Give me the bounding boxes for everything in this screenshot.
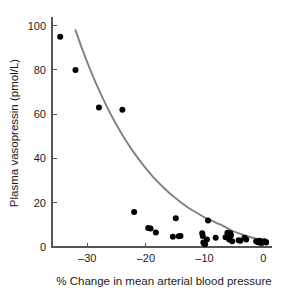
axes-group — [52, 17, 272, 247]
data-point — [243, 236, 249, 242]
y-tick-label: 40 — [34, 152, 46, 164]
data-point — [263, 240, 269, 246]
y-axis-title: Plasma vasopressin (pmol/L) — [8, 59, 20, 207]
x-tick-label: –20 — [137, 252, 155, 264]
x-tick-label: –30 — [78, 252, 96, 264]
data-point — [173, 215, 179, 221]
data-point — [153, 229, 159, 235]
y-tick-label: 60 — [34, 108, 46, 120]
x-tick-label: –10 — [195, 252, 213, 264]
data-point — [213, 235, 219, 241]
x-axis-title: % Change in mean arterial blood pressure — [56, 275, 271, 287]
y-tick-label: 100 — [28, 20, 46, 32]
y-tick-label: 20 — [34, 197, 46, 209]
data-point — [177, 233, 183, 239]
vasopressin-scatter-figure: 020406080100–30–20–100% Change in mean a… — [0, 0, 287, 291]
data-point — [170, 234, 176, 240]
data-point — [96, 105, 102, 111]
data-point — [72, 67, 78, 73]
data-point — [204, 236, 210, 242]
data-point — [57, 34, 63, 40]
data-point — [229, 238, 235, 244]
y-tick-label: 0 — [40, 241, 46, 253]
data-point — [148, 225, 154, 231]
y-tick-label: 80 — [34, 64, 46, 76]
data-point — [205, 217, 211, 223]
x-tick-label: 0 — [260, 252, 266, 264]
data-point — [228, 232, 234, 238]
data-point — [119, 107, 125, 113]
axis-spines — [52, 17, 272, 247]
fit-curve-group — [75, 30, 267, 240]
data-point — [131, 209, 137, 215]
chart-canvas: 020406080100–30–20–100% Change in mean a… — [0, 0, 287, 291]
regression-fit-curve — [75, 30, 267, 240]
